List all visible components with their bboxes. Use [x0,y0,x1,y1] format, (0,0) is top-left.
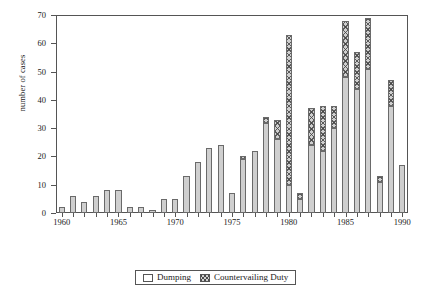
y-axis-tick-label: 70 [38,10,47,20]
hatched-square-swatch-icon [200,274,210,282]
y-axis-tick-label: 0 [42,208,46,218]
empty-square-swatch-icon [143,274,153,282]
y-axis-tick-label: 30 [38,123,47,133]
x-axis-tick-label: 1990 [394,217,411,227]
y-axis-tick-label: 10 [38,180,47,190]
x-axis-tick-label: 1970 [167,217,184,227]
legend-item-dumping: Dumping [143,273,191,282]
legend-label-dumping: Dumping [157,273,191,282]
y-axis-tick-label: 40 [38,95,47,105]
legend-label-countervailing-duty: Countervailing Duty [214,273,288,282]
x-axis-tick-label: 1985 [337,217,354,227]
y-axis-tick-label: 20 [38,151,47,161]
y-axis: 010203040506070 [0,0,56,213]
x-axis-tick-label: 1975 [224,217,241,227]
x-axis-tick-label: 1980 [280,217,297,227]
x-axis-tick-label: 1965 [110,217,127,227]
x-axis-tick-label: 1960 [53,217,70,227]
legend-item-countervailing-duty: Countervailing Duty [200,273,288,282]
x-axis-labels: 1960196519701975198019851990 [56,0,408,240]
y-axis-tick-label: 60 [38,38,47,48]
chart-legend: Dumping Countervailing Duty [135,270,296,285]
y-axis-tick-label: 50 [38,67,47,77]
bar-chart: number of cases 010203040506070 19601965… [0,0,430,300]
